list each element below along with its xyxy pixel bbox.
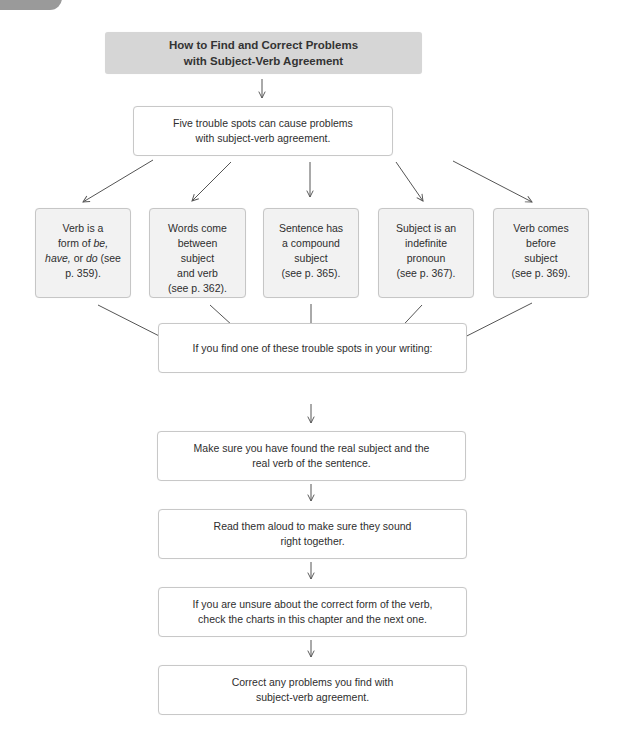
arrow-intro-to-spot-4 bbox=[396, 162, 423, 201]
trouble-spot-be-have-do: Verb is a form of be, have, or do (see p… bbox=[35, 208, 131, 298]
flowchart-title: How to Find and Correct Problems with Su… bbox=[105, 32, 422, 74]
trouble-spot-text: Words come between subject and verb (see… bbox=[168, 221, 227, 296]
step-text: Read them aloud to make sure they sound … bbox=[214, 519, 412, 549]
arrow-intro-to-spot-2 bbox=[192, 162, 231, 201]
intro-text: Five trouble spots can cause problems wi… bbox=[173, 116, 353, 146]
trouble-spot-text: Subject is an indefinite pronoun (see p.… bbox=[396, 221, 456, 281]
intro-box: Five trouble spots can cause problems wi… bbox=[133, 106, 393, 156]
trouble-spot-verb-before-subject: Verb comes before subject (see p. 369). bbox=[493, 208, 589, 298]
step-find-real-subject-verb: Make sure you have found the real subjec… bbox=[157, 431, 466, 481]
trouble-spot-text: Verb is a form of be, have, or do (see p… bbox=[45, 221, 121, 281]
trouble-spot-text: Verb comes before subject (see p. 369). bbox=[512, 221, 571, 281]
trouble-spot-compound-subject: Sentence has a compound subject (see p. … bbox=[263, 208, 359, 298]
step-find-trouble-spots: If you find one of these trouble spots i… bbox=[158, 323, 467, 373]
step-correct-problems: Correct any problems you find with subje… bbox=[158, 665, 467, 715]
arrow-intro-to-spot-5 bbox=[453, 161, 532, 202]
step-text: If you find one of these trouble spots i… bbox=[193, 341, 433, 356]
trouble-spot-text: Sentence has a compound subject (see p. … bbox=[279, 221, 343, 281]
trouble-spot-indefinite-pronoun: Subject is an indefinite pronoun (see p.… bbox=[378, 208, 474, 298]
step-text: Make sure you have found the real subjec… bbox=[194, 441, 430, 471]
title-line-2: with Subject-Verb Agreement bbox=[169, 53, 358, 69]
step-check-charts: If you are unsure about the correct form… bbox=[158, 587, 467, 637]
corner-tab-decoration bbox=[0, 0, 62, 10]
step-text: If you are unsure about the correct form… bbox=[193, 597, 433, 627]
trouble-spot-words-between: Words come between subject and verb (see… bbox=[149, 208, 246, 298]
step-text: Correct any problems you find with subje… bbox=[232, 675, 394, 705]
step-read-aloud: Read them aloud to make sure they sound … bbox=[158, 509, 467, 559]
arrow-intro-to-spot-1 bbox=[83, 160, 153, 202]
title-line-1: How to Find and Correct Problems bbox=[169, 37, 358, 53]
